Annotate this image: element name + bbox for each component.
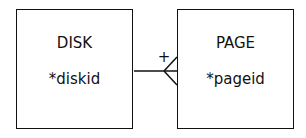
cardinality-plus-marker: + [158,48,171,66]
relationship-connector: + [0,0,306,138]
